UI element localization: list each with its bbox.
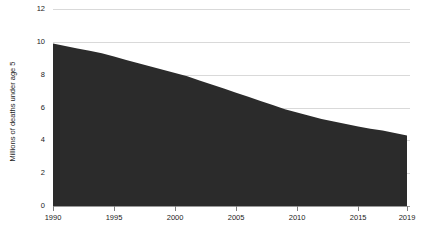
y-tick-label: 12 (37, 5, 45, 13)
x-tick-mark (53, 206, 54, 211)
y-tick-label: 8 (41, 71, 45, 79)
x-tick-mark (297, 206, 298, 211)
y-axis-tick-labels: 024681012 (0, 0, 53, 233)
x-tick-mark (175, 206, 176, 211)
x-tick-label: 2019 (399, 214, 416, 222)
x-tick-label: 1995 (106, 214, 123, 222)
plot-area (53, 9, 407, 206)
x-tick-label: 2010 (289, 214, 306, 222)
x-tick-mark (114, 206, 115, 211)
area-series-path (53, 43, 407, 206)
y-tick-label: 4 (41, 137, 45, 145)
axis-baseline (53, 206, 410, 207)
y-tick-label: 10 (37, 38, 45, 46)
x-tick-label: 2000 (167, 214, 184, 222)
y-tick-label: 2 (41, 169, 45, 177)
chart-figure: Millions of deaths under age 5 024681012… (0, 0, 422, 233)
y-tick-label: 0 (41, 202, 45, 210)
y-tick-label: 6 (41, 104, 45, 112)
x-tick-mark (358, 206, 359, 211)
x-tick-label: 2005 (228, 214, 245, 222)
x-tick-mark (236, 206, 237, 211)
x-tick-label: 2015 (350, 214, 367, 222)
area-series (53, 9, 407, 206)
x-tick-label: 1990 (45, 214, 62, 222)
x-tick-mark (407, 206, 408, 211)
